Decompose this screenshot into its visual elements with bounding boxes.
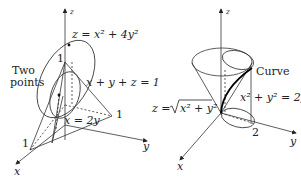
right-z-label: z <box>225 8 230 16</box>
left-tick-z: 1 <box>57 52 64 65</box>
left-tick-x: 1 <box>22 137 29 150</box>
paraboloid-label: z = x² + 4y² <box>71 28 138 41</box>
cylinder-label: x² + y² = 2y <box>240 91 301 104</box>
line-x2y-1 <box>52 96 63 143</box>
left-y-label: y <box>142 140 150 153</box>
plane-dashed-1 <box>30 105 65 150</box>
curve-label: Curve <box>256 65 289 78</box>
diagram-canvas: z z = x² + 4y² 1 Two points x + y + z = … <box>0 0 301 178</box>
right-figure <box>180 9 296 160</box>
point-upper <box>68 44 71 47</box>
left-z-label: z <box>69 8 74 16</box>
cone-label-prefix: z = <box>151 102 171 115</box>
two-points-line2: points <box>10 76 45 89</box>
left-tick-y: 1 <box>116 108 123 121</box>
line-x2y-2 <box>52 62 65 143</box>
line-x2y-dashed <box>56 95 59 130</box>
left-x-label: x <box>14 165 21 178</box>
plane-label: x + y + z = 1 <box>86 76 160 89</box>
point-lower <box>58 94 61 97</box>
right-x-label: x <box>177 160 184 173</box>
line-label: x = 2y <box>64 114 100 127</box>
left-y-axis <box>65 125 147 141</box>
right-y-label: y <box>289 135 297 148</box>
right-tick-y: 2 <box>252 126 259 139</box>
right-x-axis <box>180 113 221 160</box>
cone-label-radicand: x² + y² <box>180 102 217 115</box>
